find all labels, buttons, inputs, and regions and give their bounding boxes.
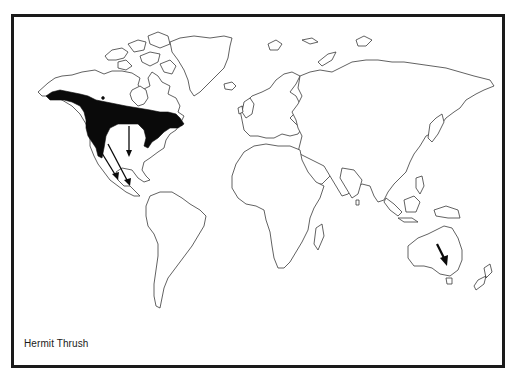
south-america-outline [146,192,206,308]
world-map [0,0,511,380]
java-outline [398,218,418,222]
australia-outline [408,226,462,276]
philippines-outline [416,176,424,194]
sri-lanka-outline [356,200,359,205]
species-name-label: Hermit Thrush [24,338,88,349]
new-guinea-outline [434,206,460,218]
franz-josef-outline [302,38,318,44]
svalbard-outline [268,40,282,50]
tasmania-outline [446,278,452,284]
new-zealand-outline [474,264,492,290]
iceland-outline [224,82,236,90]
severnaya-outline [356,36,372,46]
borneo-outline [404,196,420,212]
madagascar-outline [314,224,324,250]
sumatra-outline [384,198,402,216]
arctic-islands-outline [318,52,336,66]
ireland-outline [238,106,243,114]
greenland-outline [170,36,232,96]
